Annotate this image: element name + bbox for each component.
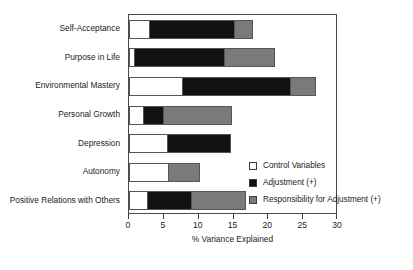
stacked-bar (129, 191, 246, 210)
x-axis-tick (128, 214, 129, 219)
bar-segment (167, 135, 230, 152)
x-axis-tick (233, 214, 234, 219)
bar-row (129, 106, 336, 125)
bar-segment (130, 192, 147, 209)
x-axis-tick-label: 10 (186, 220, 210, 230)
bar-segment (163, 107, 231, 124)
x-axis-tick (198, 214, 199, 219)
x-axis-tick (267, 214, 268, 219)
category-label: Environmental Mastery (35, 80, 120, 90)
horizontal-stacked-bar-chart: Self-AcceptancePurpose in LifeEnvironmen… (0, 0, 413, 270)
category-label: Positive Relations with Others (10, 195, 120, 205)
bar-segment (143, 107, 163, 124)
bar-segment (191, 192, 245, 209)
legend-item: Control Variables (249, 158, 411, 173)
category-label: Personal Growth (58, 109, 120, 119)
chart-legend: Control VariablesAdjustment (+)Responsib… (249, 158, 411, 209)
legend-swatch-icon (249, 162, 257, 170)
category-label: Autonomy (83, 166, 120, 176)
legend-label: Adjustment (+) (263, 178, 316, 187)
bar-row (129, 134, 336, 153)
x-axis-tick-label: 30 (325, 220, 349, 230)
x-axis-tick (336, 214, 337, 219)
stacked-bar (129, 20, 253, 39)
x-axis-tick-label: 5 (151, 220, 175, 230)
legend-item: Responsibility for Adjustment (+) (249, 192, 411, 207)
x-axis-tick-label: 15 (221, 220, 245, 230)
x-axis-tick-label: 0 (116, 220, 140, 230)
bar-segment (134, 49, 224, 66)
bar-segment (130, 78, 182, 95)
legend-label: Control Variables (263, 161, 325, 170)
legend-swatch-icon (249, 179, 257, 187)
bar-segment (130, 164, 168, 181)
bar-segment (182, 78, 289, 95)
x-axis-tick (302, 214, 303, 219)
bar-row (129, 77, 336, 96)
stacked-bar (129, 163, 200, 182)
legend-label: Responsibility for Adjustment (+) (263, 195, 381, 204)
category-axis-labels: Self-AcceptancePurpose in LifeEnvironmen… (0, 14, 124, 214)
x-axis-title: % Variance Explained (128, 234, 337, 244)
stacked-bar (129, 134, 231, 153)
bar-segment (149, 21, 234, 38)
x-axis-tick-label: 25 (290, 220, 314, 230)
bar-segment (168, 164, 199, 181)
bar-row (129, 48, 336, 67)
category-label: Depression (78, 138, 120, 148)
bar-segment (130, 107, 143, 124)
bar-segment (130, 135, 167, 152)
legend-item: Adjustment (+) (249, 175, 411, 190)
bar-segment (234, 21, 252, 38)
bar-segment (147, 192, 191, 209)
legend-swatch-icon (249, 196, 257, 204)
bar-row (129, 20, 336, 39)
bar-segment (290, 78, 315, 95)
bar-segment (224, 49, 274, 66)
x-axis-tick (163, 214, 164, 219)
category-label: Self-Acceptance (60, 23, 120, 33)
stacked-bar (129, 77, 316, 96)
x-axis-tick-label: 20 (255, 220, 279, 230)
category-label: Purpose in Life (65, 52, 120, 62)
stacked-bar (129, 106, 232, 125)
stacked-bar (129, 48, 275, 67)
bar-segment (130, 21, 149, 38)
